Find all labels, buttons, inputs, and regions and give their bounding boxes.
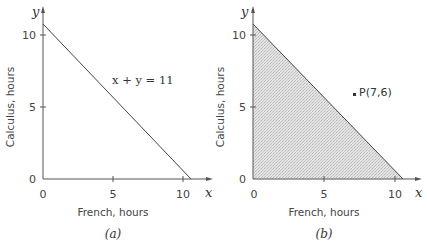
x-axis-arrow-icon [415,177,422,181]
y-axis-arrow-icon [41,6,45,13]
x-tick-label: 5 [110,188,117,201]
y-tick-label: 10 [232,29,246,42]
y-axis-title: Calculus, hours [4,67,16,147]
y-axis-arrow-icon [251,6,255,13]
y-axis-var: y [31,4,40,19]
chart-panel-a: 0 5 10 0 5 10 y x French, hours Calculus… [4,4,213,241]
x-axis-title: French, hours [288,206,359,218]
x-axis-var: x [415,185,423,200]
constraint-line [43,24,191,179]
panel-caption: (a) [105,227,122,241]
y-tick-label: 5 [239,101,246,114]
x-axis-title: French, hours [77,206,148,218]
x-tick-label: 10 [388,188,402,201]
y-tick-label: 5 [29,101,36,114]
x-tick-label: 10 [176,188,190,201]
y-tick-label: 10 [22,29,36,42]
point-label: P(7,6) [359,86,392,99]
y-axis-title: Calculus, hours [214,67,226,147]
y-tick-label: 0 [239,173,246,186]
x-axis-var: x [205,185,213,200]
x-axis-arrow-icon [206,177,213,181]
x-tick-label: 0 [40,188,47,201]
point-marker [353,93,356,96]
panel-caption: (b) [315,227,332,241]
equation-label: x + y = 11 [112,73,174,87]
y-tick-label: 0 [29,173,36,186]
chart-panel-b: 0 5 10 0 5 10 y x French, hours Calculus… [214,4,423,241]
x-tick-label: 0 [251,188,258,201]
x-tick-label: 5 [321,188,328,201]
y-axis-var: y [240,4,249,19]
